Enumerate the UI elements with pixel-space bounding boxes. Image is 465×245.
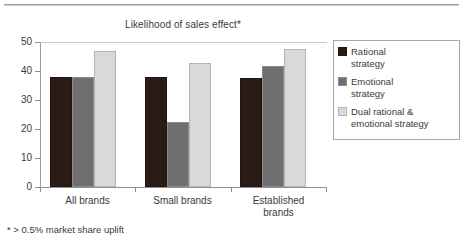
- x-axis-group-label: All brands: [40, 195, 135, 207]
- bars-layer: [41, 42, 327, 187]
- x-axis-group-label-line1: Small brands: [135, 195, 230, 207]
- x-axis-tick: [40, 187, 41, 192]
- chart-title: Likelihood of sales effect*: [40, 19, 326, 30]
- bar-emotional: [72, 77, 94, 187]
- legend-label-rational: Rational strategy: [351, 46, 386, 69]
- legend-swatch-rational-icon: [338, 47, 347, 56]
- x-axis-group-label-line1: All brands: [40, 195, 135, 207]
- legend-label-emotional-line2: strategy: [351, 88, 385, 99]
- x-axis-group-label-line1: Established: [231, 195, 326, 207]
- bar-rational: [240, 78, 262, 187]
- y-axis-tick: [35, 71, 40, 72]
- y-axis-tick: [35, 129, 40, 130]
- legend-item-emotional: Emotional strategy: [338, 76, 455, 99]
- x-axis-line: [40, 187, 327, 188]
- bar-dual: [284, 49, 306, 187]
- y-axis-label: 50: [10, 37, 32, 47]
- legend-label-emotional: Emotional strategy: [351, 76, 393, 99]
- x-axis-tick: [231, 187, 232, 192]
- legend-swatch-emotional-icon: [338, 77, 347, 86]
- chart-figure: Likelihood of sales effect* 01020304050 …: [0, 0, 465, 245]
- x-axis-tick: [135, 187, 136, 192]
- legend-label-emotional-line1: Emotional: [351, 76, 393, 87]
- legend-label-dual-line2: emotional strategy: [351, 118, 429, 129]
- legend-item-dual: Dual rational & emotional strategy: [338, 106, 455, 129]
- chart-legend: Rational strategy Emotional strategy Dua…: [333, 40, 460, 140]
- x-axis-group-label-line2: brands: [231, 207, 326, 219]
- y-axis-label: 30: [10, 95, 32, 105]
- legend-label-dual-line1: Dual rational &: [351, 106, 413, 117]
- bar-dual: [189, 63, 211, 187]
- y-axis-tick: [35, 158, 40, 159]
- x-axis-tick: [326, 187, 327, 192]
- chart-footnote: * > 0.5% market share uplift: [7, 224, 124, 235]
- x-axis-group-label: Small brands: [135, 195, 230, 207]
- legend-swatch-dual-icon: [338, 107, 347, 116]
- legend-item-rational: Rational strategy: [338, 46, 455, 69]
- legend-label-rational-line2: strategy: [351, 58, 385, 69]
- bar-dual: [94, 51, 116, 187]
- x-axis-group-label: Establishedbrands: [231, 195, 326, 219]
- y-axis-tick: [35, 100, 40, 101]
- bar-emotional: [167, 122, 189, 187]
- header-rule: [4, 4, 459, 6]
- legend-label-dual: Dual rational & emotional strategy: [351, 106, 429, 129]
- bar-rational: [145, 77, 167, 187]
- bar-rational: [50, 77, 72, 187]
- bar-emotional: [262, 66, 284, 187]
- y-axis-label: 40: [10, 66, 32, 76]
- y-axis-tick: [35, 42, 40, 43]
- y-axis-label: 20: [10, 124, 32, 134]
- legend-label-rational-line1: Rational: [351, 46, 386, 57]
- y-axis-label: 0: [10, 182, 32, 192]
- y-axis-label: 10: [10, 153, 32, 163]
